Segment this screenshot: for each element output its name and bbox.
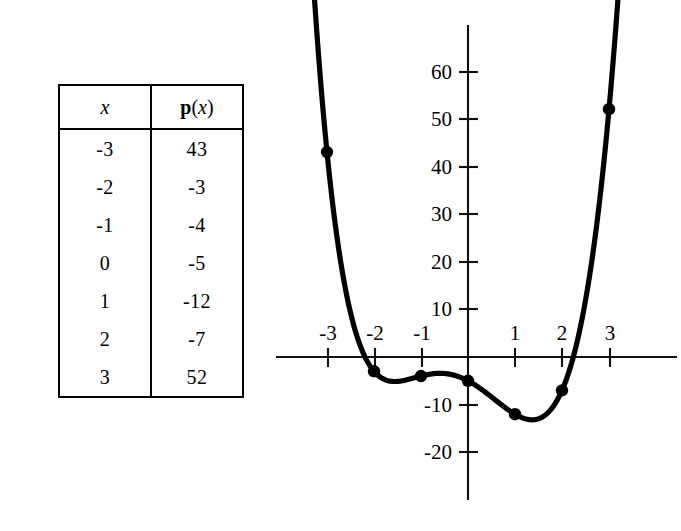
cell-x: 2	[59, 320, 151, 358]
table-header: x p(x)	[59, 85, 243, 129]
graph-panel: -3 -2 -1 1 2 3 60 50 40 30 20 10 -10 -20	[272, 0, 681, 531]
y-label-20: 20	[431, 250, 452, 274]
x-label--1: -1	[413, 321, 431, 345]
table-header-row: x p(x)	[59, 85, 243, 129]
column-header-px: p(x)	[151, 85, 243, 129]
table-body: -343-2-3-1-40-51-122-7352	[59, 129, 243, 397]
cell-x: -3	[59, 129, 151, 168]
x-label--2: -2	[366, 321, 384, 345]
x-label-1: 1	[510, 321, 521, 345]
y-label-60: 60	[431, 60, 452, 84]
x-label-3: 3	[605, 321, 616, 345]
table-row: -343	[59, 129, 243, 168]
table-row: -2-3	[59, 168, 243, 206]
cell-x: -2	[59, 168, 151, 206]
cell-px: -12	[151, 282, 243, 320]
cell-px: -4	[151, 206, 243, 244]
data-point	[321, 146, 333, 158]
x-label--3: -3	[319, 321, 337, 345]
data-point	[415, 370, 427, 382]
table-row: 352	[59, 358, 243, 397]
table-row: -1-4	[59, 206, 243, 244]
cell-px: 43	[151, 129, 243, 168]
coordinate-plane: -3 -2 -1 1 2 3 60 50 40 30 20 10 -10 -20	[272, 0, 681, 531]
y-label-50: 50	[431, 107, 452, 131]
cell-px: -7	[151, 320, 243, 358]
values-table: x p(x) -343-2-3-1-40-51-122-7352	[58, 84, 244, 398]
table-row: 1-12	[59, 282, 243, 320]
y-label-10: 10	[431, 297, 452, 321]
cell-px: -5	[151, 244, 243, 282]
cell-x: 3	[59, 358, 151, 397]
header-p-bold: p	[180, 96, 191, 118]
y-label--20: -20	[424, 440, 452, 464]
y-label-40: 40	[431, 155, 452, 179]
data-point	[509, 408, 521, 420]
y-label--10: -10	[424, 393, 452, 417]
cell-px: 52	[151, 358, 243, 397]
table-row: 0-5	[59, 244, 243, 282]
data-point	[603, 103, 615, 115]
header-p-var: x	[198, 96, 207, 118]
data-point	[556, 384, 568, 396]
y-label-30: 30	[431, 202, 452, 226]
x-label-2: 2	[557, 321, 568, 345]
cell-x: 0	[59, 244, 151, 282]
data-point	[368, 365, 380, 377]
header-p-close: )	[207, 96, 214, 118]
cell-x: 1	[59, 282, 151, 320]
table-row: 2-7	[59, 320, 243, 358]
data-point	[462, 375, 474, 387]
cell-px: -3	[151, 168, 243, 206]
cell-x: -1	[59, 206, 151, 244]
column-header-x: x	[59, 85, 151, 129]
